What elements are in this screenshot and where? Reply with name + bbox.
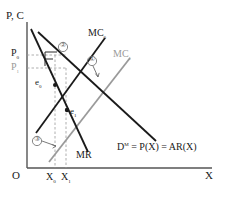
diagram-svg	[0, 0, 225, 197]
equilibrium-label-e1: e1	[70, 107, 77, 118]
equilibrium-label-e1-subscript: 1	[74, 113, 77, 118]
origin-label: O	[12, 170, 20, 181]
curve-label-mc1-subscript: 1	[129, 56, 132, 61]
equilibrium-label-e0: e0	[35, 78, 42, 89]
curve-label-mc1: MC1	[113, 49, 131, 61]
annotation-3-arrowhead	[52, 145, 56, 149]
x-axis-label: X	[205, 170, 213, 181]
figure-canvas: P, C X O P0 P1 X0 X1 MC0 MC1 MR DM = P(X…	[0, 0, 225, 197]
price-tick-p1-subscript: 1	[17, 69, 20, 74]
y-axis-label: P, C	[6, 10, 24, 21]
curve-label-demand: DM = P(X) = AR(X)	[117, 142, 197, 152]
curve-label-mc0-subscript: 0	[104, 35, 107, 40]
point-e0	[53, 83, 57, 87]
quantity-tick-x0: X0	[46, 172, 56, 184]
annotation-3-marker: ③	[34, 136, 40, 143]
quantity-tick-x0-subscript: 0	[53, 179, 56, 184]
equilibrium-label-e0-subscript: 0	[39, 84, 42, 89]
curve-label-mr: MR	[76, 150, 92, 160]
curve-label-demand-rest: = P(X) = AR(X)	[129, 141, 197, 152]
price-tick-p0-subscript: 0	[17, 55, 20, 60]
point-e1	[65, 108, 69, 112]
quantity-tick-x1-subscript: 1	[68, 179, 71, 184]
price-tick-p0: P0	[11, 48, 19, 60]
annotation-1-marker: ①	[89, 56, 95, 63]
annotation-2-marker: ②	[60, 42, 66, 49]
curve-label-mc0: MC0	[88, 28, 106, 40]
price-tick-p1: P1	[11, 62, 19, 74]
quantity-tick-x1: X1	[61, 172, 71, 184]
